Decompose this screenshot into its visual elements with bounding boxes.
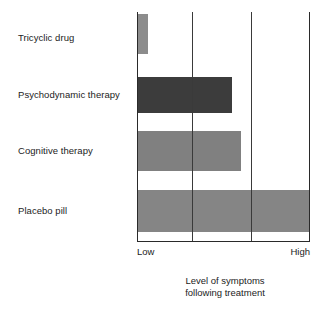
x-axis-caption-line2: following treatment <box>137 287 313 299</box>
bar-placebo-pill <box>137 190 310 232</box>
axis-line-right <box>309 12 310 242</box>
bar-chart-figure: Tricyclic drug Psychodynamic therapy Cog… <box>0 0 327 309</box>
bar-tricyclic-drug <box>137 14 148 54</box>
category-label-psychodynamic-therapy: Psychodynamic therapy <box>18 89 136 100</box>
bar-psychodynamic-therapy <box>137 77 232 113</box>
gridline-1 <box>192 12 193 242</box>
x-axis-caption: Level of symptoms following treatment <box>137 275 313 299</box>
category-label-tricyclic-drug: Tricyclic drug <box>18 32 136 43</box>
axis-line-bottom <box>137 241 310 242</box>
x-axis-caption-line1: Level of symptoms <box>137 275 313 287</box>
x-axis-tick-low: Low <box>137 246 154 257</box>
axis-line-left <box>137 12 138 242</box>
x-axis-tick-high: High <box>216 246 310 257</box>
category-label-placebo-pill: Placebo pill <box>18 205 136 216</box>
gridline-2 <box>251 12 252 242</box>
category-label-cognitive-therapy: Cognitive therapy <box>18 145 136 156</box>
plot-area <box>137 12 310 242</box>
bar-cognitive-therapy <box>137 131 241 171</box>
